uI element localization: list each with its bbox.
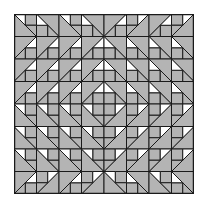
quilt-patch [70,104,81,115]
quilt-patch [149,70,160,81]
quilt-patch [48,104,59,115]
quilt-patch [127,48,138,59]
quilt-patch [127,70,138,81]
quilt-patch [93,48,104,59]
quilt-patch [25,127,36,138]
quilt-patch [37,172,48,183]
quilt-patch [127,14,138,25]
quilt-patch [25,183,36,194]
quilt-svg [14,14,194,194]
quilt-patch [37,25,48,36]
quilt-patch [82,25,93,36]
quilt-patch [172,183,183,194]
quilt-patch [127,104,138,115]
quilt-patch [172,149,183,160]
quilt-patch [172,14,183,25]
quilt-patch [149,48,160,59]
quilt-patch [82,172,93,183]
quilt-patch [25,93,36,104]
quilt-patch [104,48,115,59]
quilt-patch [93,70,104,81]
quilt-patch [70,149,81,160]
quilt-patch [48,93,59,104]
quilt-patch [127,183,138,194]
quilt-patch [25,149,36,160]
quilt-patch [70,70,81,81]
quilt-patch [172,127,183,138]
quilt-patch [70,93,81,104]
quilt-patch [127,127,138,138]
quilt-patch [93,104,104,115]
quilt-patch [48,48,59,59]
quilt-patch [149,127,160,138]
quilt-patch [127,93,138,104]
quilt-patch [172,93,183,104]
quilt-patch [25,48,36,59]
quilt-patch [104,70,115,81]
quilt-patch [127,149,138,160]
quilt-patch [25,70,36,81]
quilt-patch [48,149,59,160]
quilt-patch [160,172,171,183]
quilt-patch [25,14,36,25]
quilt-patch [149,149,160,160]
quilt-patch [172,70,183,81]
quilt-patch [149,104,160,115]
quilt-patch [48,127,59,138]
quilt-patch [115,172,126,183]
quilt-patch [93,93,104,104]
quilt-patch [104,127,115,138]
quilt-patch [70,48,81,59]
quilt-patch [93,149,104,160]
quilt-patch [70,14,81,25]
quilt-patch [48,70,59,81]
quilt-patch [104,104,115,115]
quilt-patch [25,104,36,115]
quilt-patch [70,183,81,194]
quilt-patch [149,93,160,104]
quilt-patch [104,149,115,160]
quilt-patch [70,127,81,138]
quilt-patch [172,48,183,59]
quilt-patch [104,93,115,104]
quilt-patch [172,104,183,115]
quilt-patch [115,25,126,36]
quilt-patch [93,127,104,138]
quilt-patch [160,25,171,36]
quilt-pattern [14,14,194,194]
